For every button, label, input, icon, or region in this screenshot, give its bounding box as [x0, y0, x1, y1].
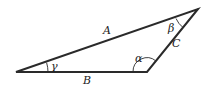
angle-label-gamma: γ [51, 60, 58, 73]
triangle-diagram: A B C γ α β [0, 0, 210, 90]
angle-label-beta: β [167, 22, 174, 35]
side-label-b: B [82, 74, 91, 87]
gamma-arc [47, 63, 48, 72]
angle-label-alpha: α [135, 52, 143, 65]
beta-arc [176, 19, 183, 28]
side-label-a: A [102, 24, 111, 37]
side-label-c: C [172, 37, 181, 50]
triangle-outline [16, 9, 198, 72]
